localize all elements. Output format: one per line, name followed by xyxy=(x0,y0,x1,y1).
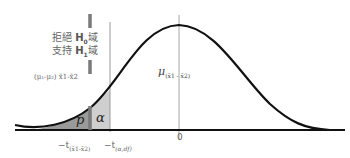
mean-subscript: (x̄1 - x̄2) xyxy=(165,72,190,79)
support-h1-suffix: 域 xyxy=(88,45,98,56)
zero-tick-label: 0 xyxy=(177,133,183,142)
t-observed-subscript: (x̄1-x̄2) xyxy=(69,145,90,152)
support-h1-label: 支持 H1域 xyxy=(52,46,98,58)
mean-label: μ(x̄1 - x̄2) xyxy=(158,66,190,79)
t-observed-prefix: −t xyxy=(58,140,69,150)
reject-h0-label: 拒絕 H0域 xyxy=(52,33,98,45)
h0-symbol: H xyxy=(75,32,83,43)
reject-h0-prefix: 拒絕 xyxy=(52,32,75,43)
t-critical-subscript: (α,df) xyxy=(115,145,132,152)
t-observed-label: −t(x̄1-x̄2) xyxy=(58,141,90,152)
observed-difference-label: (μ₁-μ₂) x̄1-x̄2 xyxy=(34,74,78,81)
support-h1-prefix: 支持 xyxy=(52,45,75,56)
t-critical-label: −t(α,df) xyxy=(104,141,132,152)
alpha-region-label: α xyxy=(96,111,105,124)
p-region-label: p xyxy=(76,113,84,126)
reject-h0-suffix: 域 xyxy=(88,32,98,43)
h1-symbol: H xyxy=(75,45,83,56)
t-critical-prefix: −t xyxy=(104,140,115,150)
